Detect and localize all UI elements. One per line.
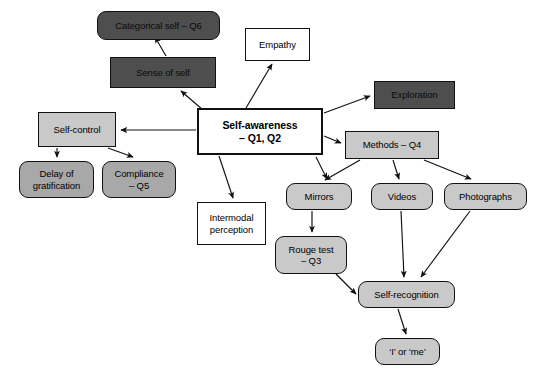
node-self_recognition[interactable]: Self-recognition (358, 281, 455, 308)
node-empathy[interactable]: Empathy (245, 28, 310, 61)
node-methods[interactable]: Methods – Q4 (345, 131, 439, 159)
node-sense_of_self[interactable]: Sense of self (110, 57, 216, 88)
node-categorical_self[interactable]: Categorical self – Q6 (97, 11, 220, 40)
node-rouge_test[interactable]: Rouge test – Q3 (275, 236, 347, 274)
e-rouge-to-selfrecognition (336, 274, 356, 294)
e-methods-to-photographs (424, 160, 471, 179)
e-awareness-to-methods (324, 136, 341, 143)
e-videos-to-selfrecognition (401, 211, 404, 277)
node-i_or_me[interactable]: ‘I’ or ‘me’ (375, 338, 440, 365)
e-awareness-to-intermodal (219, 156, 233, 198)
e-selfrecognition-to-iorme (398, 309, 406, 334)
node-intermodal_perception[interactable]: Intermodal perception (197, 202, 266, 245)
diagram-canvas: Categorical self – Q6Sense of selfEmpath… (0, 0, 541, 379)
e-awareness-to-exploration (324, 96, 370, 113)
node-videos[interactable]: Videos (371, 183, 433, 210)
node-self_control[interactable]: Self-control (38, 112, 116, 147)
e-methods-to-mirrors (325, 160, 360, 180)
e-methods-to-videos (393, 160, 399, 179)
e-awareness-to-mirrors (316, 157, 327, 179)
node-exploration[interactable]: Exploration (374, 81, 455, 109)
e-selfcontrol-to-compliance (108, 148, 133, 157)
e-photographs-to-selfrecognition (421, 211, 470, 277)
node-photographs[interactable]: Photographs (444, 183, 527, 210)
node-mirrors[interactable]: Mirrors (286, 183, 352, 210)
node-delay_of_gratification[interactable]: Delay of gratification (19, 161, 94, 198)
e-awareness-to-empathy (246, 64, 272, 108)
node-compliance[interactable]: Compliance – Q5 (102, 161, 176, 198)
node-self_awareness[interactable]: Self-awareness – Q1, Q2 (197, 108, 323, 155)
